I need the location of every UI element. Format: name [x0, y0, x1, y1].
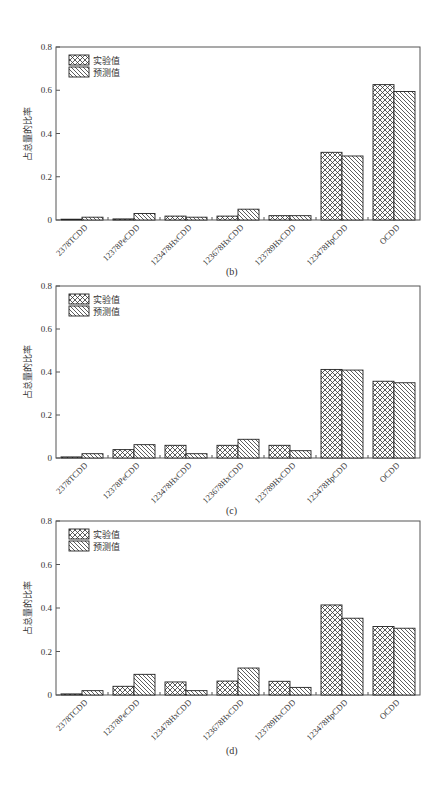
- bar-experimental: [321, 369, 342, 458]
- caption-c: (c): [226, 505, 237, 516]
- bar-experimental: [269, 216, 290, 220]
- bar-experimental: [373, 381, 394, 458]
- x-tick-label: OCDD: [377, 697, 401, 721]
- legend-swatch-experimental: [69, 529, 89, 539]
- x-tick-label: OCDD: [377, 222, 401, 246]
- y-tick-label: 0.6: [41, 560, 53, 570]
- y-axis-label: 占总量的比率: [22, 345, 33, 399]
- bar-predicted: [342, 618, 363, 695]
- y-tick-label: 0.4: [41, 367, 53, 377]
- x-tick-label: 2378TCDD: [54, 460, 89, 495]
- x-tick-label: 12378PeCDD: [101, 222, 142, 263]
- legend-swatch-predicted: [69, 541, 89, 551]
- bar-experimental: [165, 682, 186, 695]
- bar-predicted: [394, 92, 415, 220]
- x-tick-label: 123678HxCDD: [200, 460, 245, 505]
- bar-experimental: [165, 216, 186, 220]
- x-tick-label: 123678HxCDD: [200, 222, 245, 267]
- y-axis-label: 占总量的比率: [22, 107, 33, 161]
- x-tick-label: 123478HpCDD: [304, 222, 349, 267]
- bar-predicted: [134, 445, 155, 458]
- bar-predicted: [290, 687, 311, 695]
- y-tick-label: 0.4: [41, 603, 53, 613]
- legend-swatch-experimental: [69, 55, 89, 65]
- bar-predicted: [134, 214, 155, 220]
- bar-experimental: [269, 681, 290, 695]
- bar-predicted: [186, 217, 207, 220]
- bar-experimental: [217, 445, 238, 458]
- caption-d: (d): [226, 745, 238, 756]
- bar-experimental: [113, 219, 134, 220]
- y-tick-label: 0.6: [41, 324, 53, 334]
- x-tick-label: 12378PeCDD: [101, 460, 142, 501]
- chart-panel-c: 00.20.40.60.8占总量的比率2378TCDD12378PeCDD123…: [22, 281, 420, 505]
- legend-label-experimental: 实验值: [93, 529, 120, 540]
- bar-experimental: [61, 219, 82, 220]
- legend-swatch-predicted: [69, 67, 89, 77]
- bar-experimental: [217, 681, 238, 695]
- bar-predicted: [290, 216, 311, 220]
- bar-predicted: [238, 209, 259, 220]
- legend-swatch-predicted: [69, 306, 89, 316]
- bar-experimental: [373, 626, 394, 695]
- chart-canvas: 00.20.40.60.8占总量的比率2378TCDD12378PeCDD123…: [0, 0, 447, 796]
- bar-predicted: [186, 454, 207, 458]
- x-tick-label: 123478HxCDD: [148, 697, 193, 742]
- legend-label-predicted: 预测值: [93, 67, 120, 78]
- bar-predicted: [82, 691, 103, 695]
- y-tick-label: 0.8: [41, 42, 53, 52]
- x-tick-label: 123789HxCDD: [252, 460, 297, 505]
- y-tick-label: 0.2: [41, 172, 52, 182]
- bar-experimental: [165, 445, 186, 458]
- bar-predicted: [394, 628, 415, 695]
- legend-label-experimental: 实验值: [93, 55, 120, 66]
- bar-experimental: [321, 152, 342, 220]
- bar-predicted: [238, 668, 259, 695]
- bar-predicted: [342, 156, 363, 220]
- y-tick-label: 0.6: [41, 85, 53, 95]
- bar-predicted: [82, 454, 103, 458]
- y-axis-label: 占总量的比率: [22, 581, 33, 635]
- caption-b: (b): [226, 266, 238, 277]
- bar-experimental: [61, 694, 82, 695]
- x-tick-label: 2378TCDD: [54, 222, 89, 257]
- bar-experimental: [61, 457, 82, 458]
- bar-experimental: [217, 216, 238, 220]
- chart-panel-d: 00.20.40.60.8占总量的比率2378TCDD12378PeCDD123…: [22, 516, 420, 742]
- x-tick-label: 123478HpCDD: [304, 697, 349, 742]
- y-tick-label: 0: [48, 215, 53, 225]
- legend-swatch-experimental: [69, 294, 89, 304]
- y-tick-label: 0: [48, 453, 53, 463]
- bar-experimental: [113, 450, 134, 458]
- y-tick-label: 0.2: [41, 410, 52, 420]
- bar-predicted: [342, 370, 363, 458]
- legend-label-predicted: 预测值: [93, 306, 120, 317]
- y-tick-label: 0.4: [41, 129, 53, 139]
- bar-predicted: [394, 383, 415, 458]
- bar-experimental: [113, 686, 134, 695]
- x-tick-label: 123478HpCDD: [304, 460, 349, 505]
- chart-panel-b: 00.20.40.60.8占总量的比率2378TCDD12378PeCDD123…: [22, 42, 420, 267]
- bar-experimental: [269, 445, 290, 458]
- x-tick-label: 123478HxCDD: [148, 222, 193, 267]
- y-tick-label: 0.2: [41, 647, 52, 657]
- bar-predicted: [134, 674, 155, 695]
- legend-label-experimental: 实验值: [93, 294, 120, 305]
- bar-predicted: [82, 217, 103, 220]
- bar-predicted: [186, 691, 207, 695]
- x-tick-label: 2378TCDD: [54, 697, 89, 732]
- bar-experimental: [373, 85, 394, 220]
- figure: 00.20.40.60.8占总量的比率2378TCDD12378PeCDD123…: [0, 0, 447, 796]
- y-tick-label: 0: [48, 690, 53, 700]
- bar-experimental: [321, 605, 342, 695]
- y-tick-label: 0.8: [41, 516, 53, 526]
- bar-predicted: [290, 451, 311, 458]
- legend-label-predicted: 预测值: [93, 541, 120, 552]
- x-tick-label: 123478HxCDD: [148, 460, 193, 505]
- x-tick-label: OCDD: [377, 460, 401, 484]
- bar-predicted: [238, 439, 259, 458]
- x-tick-label: 123678HxCDD: [200, 697, 245, 742]
- y-tick-label: 0.8: [41, 281, 53, 291]
- x-tick-label: 12378PeCDD: [101, 697, 142, 738]
- x-tick-label: 123789HxCDD: [252, 222, 297, 267]
